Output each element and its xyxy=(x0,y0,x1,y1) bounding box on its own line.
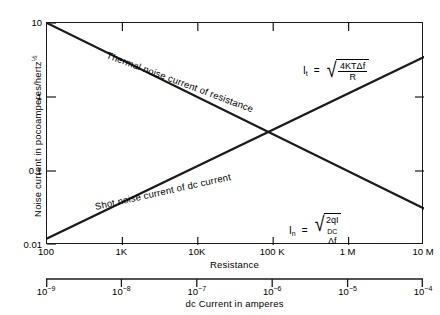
dc-tick-label: 10−5 xyxy=(338,285,357,297)
y-tick-marks-right xyxy=(415,97,424,171)
x-axis-ticks-resistance: 100 1K 10K 100 K 1 M 10 M xyxy=(46,246,423,260)
thermal-equation-lhs: It xyxy=(303,65,308,76)
x-tick-label: 10 M xyxy=(412,246,433,257)
y-tick-label: 0.1 xyxy=(10,165,42,176)
shot-equation-radicand: 2qIDCΔf xyxy=(324,213,341,247)
x-tick-marks-top xyxy=(122,23,348,31)
x-tick-label: 1K xyxy=(116,246,128,257)
thermal-equation-radicand: 4KTΔf R xyxy=(336,59,369,83)
y-tick-marks xyxy=(47,23,56,245)
thermal-equation-denominator: R xyxy=(338,71,367,82)
secondary-axis-dc-current xyxy=(46,274,423,284)
dc-tick-label: 10−9 xyxy=(37,285,56,297)
shot-noise-line xyxy=(47,57,424,239)
shot-equation-radicand-sub: DC xyxy=(327,227,337,236)
dc-tick-label: 10−4 xyxy=(414,285,433,297)
shot-equation-radical: √ 2qIDCΔf xyxy=(314,213,341,247)
y-tick-label: 10 xyxy=(10,17,42,28)
shot-equation-equals: = xyxy=(300,225,310,236)
thermal-equation-numerator: 4KTΔf xyxy=(338,61,367,71)
shot-noise-equation: In = √ 2qIDCΔf xyxy=(289,213,341,247)
thermal-noise-line xyxy=(47,23,424,209)
x-axis-ticks-dc-current: 10−9 10−8 10−7 10−6 10−5 10−4 xyxy=(46,285,423,299)
thermal-noise-equation: It = √ 4KTΔf R xyxy=(303,59,369,83)
shot-equation-radicand-head: 2qI xyxy=(326,215,339,227)
dc-tick-label: 10−7 xyxy=(188,285,207,297)
x-tick-label: 1 M xyxy=(340,246,356,257)
x-tick-label: 10K xyxy=(188,246,205,257)
radical-sign-icon: √ xyxy=(326,59,336,83)
x-axis-label-resistance: Resistance xyxy=(46,259,423,270)
x-tick-label: 100 xyxy=(38,246,54,257)
plot-svg xyxy=(47,23,424,245)
plot-area: Thermal noise current of resistance Shot… xyxy=(46,22,423,244)
x-axis-label-dc-current: dc Current in amperes xyxy=(46,298,423,309)
shot-equation-lhs: In xyxy=(289,225,296,236)
radical-sign-icon: √ xyxy=(314,213,324,247)
dc-tick-label: 10−8 xyxy=(112,285,131,297)
thermal-equation-radical: √ 4KTΔf R xyxy=(326,59,370,83)
y-tick-label: 1 xyxy=(10,91,42,102)
x-tick-label: 100 K xyxy=(260,246,285,257)
noise-current-chart: Noise current in pocoamperes/hertz½ 10 1… xyxy=(0,0,440,315)
thermal-equation-equals: = xyxy=(312,65,322,76)
y-axis-ticks: 10 1 0.1 0.01 xyxy=(10,0,42,315)
dc-tick-label: 10−6 xyxy=(263,285,282,297)
